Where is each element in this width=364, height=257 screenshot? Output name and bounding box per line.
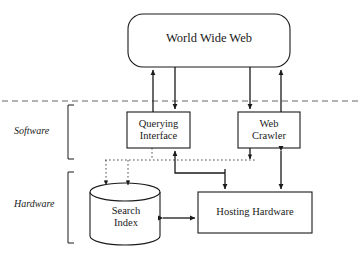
node-hosting-hardware [198, 192, 312, 233]
node-search-index [90, 183, 160, 245]
node-querying-interface [127, 112, 190, 148]
diagram-graphics [0, 0, 364, 257]
software-bracket [68, 105, 74, 159]
diagram-canvas: World Wide Web Querying Interface Web Cr… [0, 0, 364, 257]
tier-label-software: Software [14, 125, 49, 136]
hardware-bracket [68, 172, 74, 243]
edge-hosting-to-querying [175, 151, 225, 173]
node-world-wide-web [128, 14, 290, 67]
tier-label-hardware: Hardware [14, 198, 54, 209]
node-web-crawler [238, 112, 300, 148]
